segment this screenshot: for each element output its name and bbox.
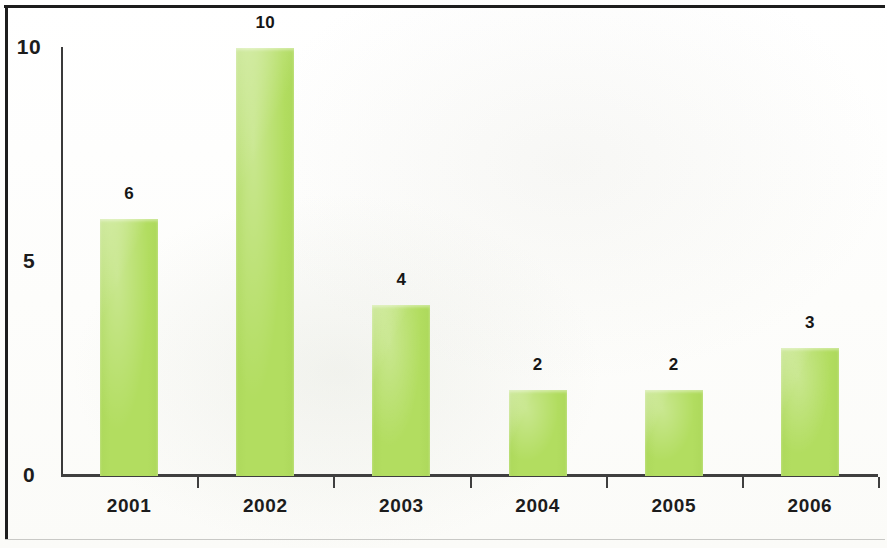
bar-value-label: 3: [760, 313, 860, 333]
bar-group: 3: [742, 0, 878, 548]
x-category-label: 2002: [197, 495, 333, 517]
y-tick-label: 5: [6, 249, 52, 273]
bar: [236, 48, 294, 476]
y-tick-label: 10: [6, 35, 52, 59]
x-category-label: 2005: [606, 495, 742, 517]
bar-group: 2: [606, 0, 742, 548]
x-category-label: 2001: [61, 495, 197, 517]
x-axis-tick: [197, 477, 199, 488]
bar: [645, 390, 703, 476]
bar-value-label: 6: [79, 184, 179, 204]
chart-screenshot: 10 5 0 6104223 200120022003200420052006: [0, 0, 887, 548]
bar-group: 10: [197, 0, 333, 548]
bar-group: 4: [333, 0, 469, 548]
bar-group: 6: [61, 0, 197, 548]
bar: [509, 390, 567, 476]
x-axis-tick: [333, 477, 335, 488]
x-axis-tick: [878, 477, 880, 488]
bar: [781, 348, 839, 476]
bar-value-label: 2: [488, 355, 588, 375]
bar-group: 2: [470, 0, 606, 548]
x-axis-tick: [470, 477, 472, 488]
bar-value-label: 2: [624, 355, 724, 375]
bar-value-label: 4: [351, 270, 451, 290]
x-category-label: 2004: [470, 495, 606, 517]
y-tick-label: 0: [6, 463, 52, 487]
x-axis-tick: [742, 477, 744, 488]
bar-chart-plot-area: 10 5 0 6104223 200120022003200420052006: [0, 0, 887, 548]
bar: [372, 305, 430, 476]
x-axis-tick: [606, 477, 608, 488]
bar-value-label: 10: [215, 13, 315, 33]
x-category-label: 2003: [333, 495, 469, 517]
bar: [100, 219, 158, 476]
x-category-label: 2006: [742, 495, 878, 517]
